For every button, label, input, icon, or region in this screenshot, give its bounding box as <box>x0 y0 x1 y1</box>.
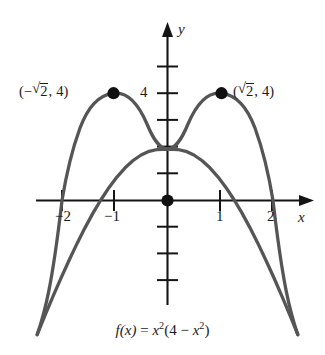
radicand: 2 <box>40 83 49 99</box>
point-left-maximum <box>107 87 119 99</box>
radical-icon: √ <box>238 81 246 96</box>
figure-container: x y −2 −1 1 2 4 (−√2, 4) (√2, 4) f(x) = … <box>0 0 325 355</box>
function-caption: f(x) = x2(4 − x2) <box>0 321 325 338</box>
open-paren-4: (4 <box>164 322 177 338</box>
square-root-expression: √2 <box>238 82 254 98</box>
paren-close: ) <box>269 83 274 99</box>
equals-sign: = <box>140 322 148 338</box>
close-paren: ) <box>204 322 209 338</box>
graph-canvas <box>0 0 325 355</box>
minus-sign: − <box>24 83 32 99</box>
x-axis-label: x <box>298 210 305 225</box>
point-origin <box>161 194 173 206</box>
comma-separator: , <box>254 83 262 99</box>
x-tick-label-minus-1: −1 <box>104 209 120 224</box>
y-tick-label-4: 4 <box>140 85 148 100</box>
x-tick-label-1: 1 <box>216 209 224 224</box>
y-axis <box>162 22 173 305</box>
paren-close: ) <box>63 83 68 99</box>
function-notation: f(x) <box>116 322 137 338</box>
x-tick-label-2: 2 <box>267 209 275 224</box>
right-maximum-annotation: (√2, 4) <box>233 82 274 98</box>
y-axis-label: y <box>178 22 185 37</box>
square-root-expression: √2 <box>32 82 48 98</box>
radicand: 2 <box>246 83 255 99</box>
radical-icon: √ <box>32 81 40 96</box>
x-tick-label-minus-2: −2 <box>55 209 71 224</box>
minus-sign: − <box>180 322 188 338</box>
point-right-maximum <box>215 87 227 99</box>
left-maximum-annotation: (−√2, 4) <box>19 82 68 98</box>
